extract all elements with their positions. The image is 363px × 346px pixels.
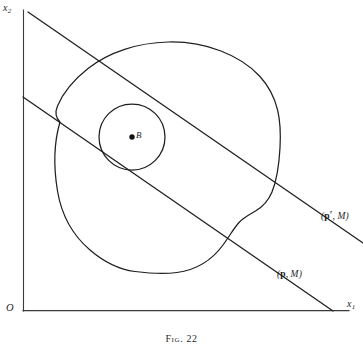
price-vector-symbol: p — [324, 211, 329, 221]
x-axis-label-text: x — [347, 298, 352, 309]
axes-group — [23, 10, 349, 311]
outer-region-curve — [55, 42, 280, 274]
figure-caption-number: 22 — [186, 333, 197, 344]
budget-line-p-prime — [28, 12, 363, 243]
budget-lines-group — [23, 12, 363, 311]
budget-line-p-label: (p, M) — [277, 270, 302, 280]
point-b-marker — [129, 134, 134, 139]
income-symbol: M — [291, 269, 299, 279]
y-axis-label-subscript: 2 — [8, 7, 12, 15]
budget-line-p-prime-label: (p′, M) — [321, 212, 349, 222]
y-axis-label: x2 — [3, 3, 11, 13]
figure-container: x2 x1 O B (p′, M) (p, M) Fig. 22 — [0, 0, 363, 346]
x-axis-label: x1 — [347, 299, 355, 309]
figure-caption-word: Fig. — [165, 333, 183, 344]
figure-caption: Fig. 22 — [0, 333, 363, 344]
point-b-label: B — [136, 131, 142, 140]
origin-label: O — [6, 303, 14, 314]
figure-drawing-canvas — [0, 0, 363, 346]
paren-close: ) — [345, 211, 348, 221]
paren-close: ) — [299, 269, 302, 279]
y-axis-label-text: x — [3, 2, 8, 13]
x-axis-label-subscript: 1 — [352, 303, 356, 311]
